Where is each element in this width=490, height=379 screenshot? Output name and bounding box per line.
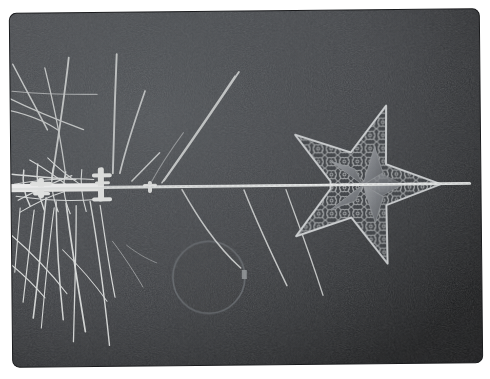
photograph-scene: Black and white photograph of a lace fil…	[0, 0, 490, 379]
photo-print	[6, 9, 482, 368]
photo-frame	[0, 0, 490, 379]
photo-canvas	[0, 0, 490, 379]
